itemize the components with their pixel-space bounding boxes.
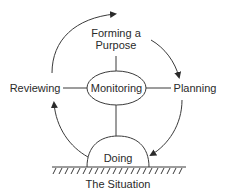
label-doing: Doing (104, 152, 133, 164)
ground-hatching (53, 168, 182, 174)
arrow-planning-to-doing (151, 100, 182, 155)
label-forming-line2: Purpose (96, 39, 137, 51)
cycle-diagram: Forming a Purpose Reviewing Monitoring P… (0, 0, 225, 196)
label-monitoring: Monitoring (91, 82, 142, 94)
label-forming-line1: Forming a (91, 27, 141, 39)
label-reviewing: Reviewing (10, 82, 61, 94)
arrow-doing-to-reviewing (54, 103, 88, 157)
label-situation: The Situation (86, 178, 151, 190)
label-planning: Planning (174, 82, 217, 94)
arrow-forming-to-planning (151, 40, 179, 77)
